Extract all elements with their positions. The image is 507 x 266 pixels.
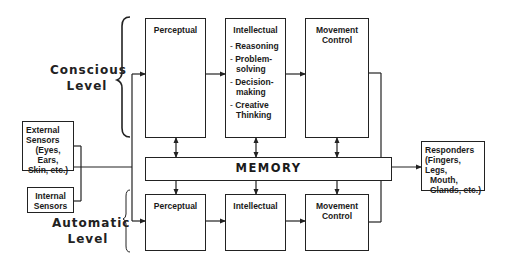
responders-box: Responders (Fingers, Legs, Mouth, Glands… [421,141,485,191]
internal-sensors-title-2: Sensors [31,201,70,211]
information-processing-diagram: Conscious Level Automatic Level External… [0,0,507,266]
memory-label: MEMORY [146,163,391,173]
conscious-perceptual-box: Perceptual [145,18,206,138]
automatic-label-line2: Level [52,231,124,247]
conscious-level-label: Conscious Level [50,62,124,94]
list-item-creative-thinking: Creative Thinking [230,100,285,120]
conscious-movement-title-2: Control [306,35,368,45]
conscious-intellectual-title: Intellectual [226,25,285,35]
conscious-movement-title-1: Movement [306,25,368,35]
list-item-problem-solving: Problem-solving [230,54,285,74]
conscious-label-line1: Conscious [50,62,124,78]
automatic-movement-title-1: Movement [306,201,368,211]
automatic-perceptual-box: Perceptual [145,194,206,251]
external-sensors-title: External [26,125,70,135]
automatic-movement-title-2: Control [306,211,368,221]
conscious-intellectual-box: Intellectual Reasoning Problem-solving D… [225,18,286,138]
automatic-movement-control-box: Movement Control [305,194,369,251]
list-item-decision-making: Decision-making [230,77,285,97]
responders-title: Responders [425,145,482,155]
responders-detail-3: Glands, etc.) [425,185,482,195]
responders-detail-1: (Fingers, Legs, [425,155,482,175]
external-sensors-title-2: Sensors [26,135,70,145]
external-sensors-box: External Sensors (Eyes, Ears, Skin, etc.… [22,121,74,171]
internal-sensors-title: Internal [31,191,70,201]
conscious-movement-control-box: Movement Control [305,18,369,138]
external-sensors-detail-1: (Eyes, Ears, [26,145,70,165]
intellectual-activities-list: Reasoning Problem-solving Decision-makin… [230,41,285,120]
memory-box: MEMORY [145,157,392,181]
automatic-label-line1: Automatic [52,215,124,231]
automatic-intellectual-title: Intellectual [226,201,285,211]
responders-detail-2: Mouth, [425,175,482,185]
conscious-label-line2: Level [50,78,124,94]
automatic-perceptual-title: Perceptual [146,201,205,211]
external-sensors-detail-2: Skin, etc.) [26,165,70,175]
automatic-intellectual-box: Intellectual [225,194,286,251]
list-item-reasoning: Reasoning [230,41,285,51]
internal-sensors-box: Internal Sensors [27,187,74,213]
conscious-perceptual-title: Perceptual [146,25,205,35]
automatic-level-label: Automatic Level [52,215,124,247]
